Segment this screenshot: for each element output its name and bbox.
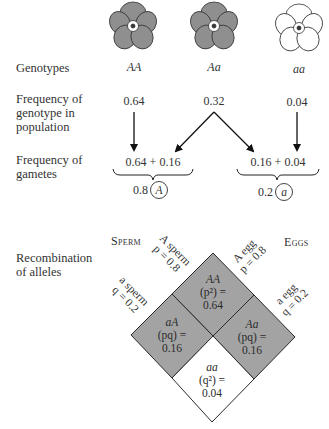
cell-genotype: aa — [182, 361, 242, 374]
gamete-a-total: 0.2a — [258, 183, 308, 201]
label-line: Recombination — [16, 251, 92, 265]
cell-genotype: AA — [183, 273, 243, 286]
freq-Aa: 0.32 — [194, 94, 234, 109]
arrow-Aa-to-a — [214, 112, 253, 151]
allele-A-circle: A — [150, 181, 168, 199]
arrow-Aa-to-A — [176, 112, 214, 151]
flower-white-icon — [271, 4, 326, 54]
cell-value: 0.64 — [183, 299, 243, 312]
freq-aa: 0.04 — [277, 95, 317, 110]
cell-value: 0.16 — [142, 342, 202, 355]
cell-formula: (pq) = — [222, 331, 282, 344]
cell-Aa-text: Aa (pq) = 0.16 — [222, 318, 282, 357]
genotype-aa: aa — [279, 62, 319, 77]
label-line: Frequency of — [16, 92, 82, 106]
allele-a-circle: a — [275, 183, 293, 201]
cell-aA-text: aA (pq) = 0.16 — [142, 316, 202, 355]
cell-aa-text: aa (q²) = 0.04 — [182, 361, 242, 400]
label-line: Frequency of — [16, 153, 82, 167]
row-label-genotypes: Genotypes — [16, 61, 69, 75]
cell-genotype: aA — [142, 316, 202, 329]
genotype-Aa: Aa — [194, 60, 234, 75]
cell-value: 0.16 — [222, 344, 282, 357]
gamete-A-value: 0.8 — [133, 183, 148, 197]
brace-a — [237, 169, 319, 180]
cell-formula: (p²) = — [183, 286, 243, 299]
eggs-heading: Eggs — [284, 235, 309, 250]
row-label-recombination: Recombination of alleles — [16, 251, 92, 279]
cell-AA-text: AA (p²) = 0.64 — [183, 273, 243, 312]
label-line: of alleles — [16, 265, 92, 279]
brace-A — [113, 169, 193, 180]
label-line: population — [16, 120, 82, 134]
label-line: genotype in — [16, 106, 82, 120]
genotype-AA: AA — [114, 60, 154, 75]
cell-formula: (q²) = — [182, 374, 242, 387]
cell-genotype: Aa — [222, 318, 282, 331]
cell-formula: (pq) = — [142, 329, 202, 342]
flower-dark-icon — [186, 2, 241, 52]
flower-dark-icon — [105, 2, 160, 52]
gamete-a-sum: 0.16 + 0.04 — [237, 155, 319, 170]
freq-AA: 0.64 — [114, 94, 154, 109]
row-label-frequency-gametes: Frequency of gametes — [16, 153, 82, 181]
gamete-A-sum: 0.64 + 0.16 — [113, 155, 193, 170]
row-label-frequency-genotype: Frequency of genotype in population — [16, 92, 82, 134]
label-line: gametes — [16, 167, 82, 181]
gamete-A-total: 0.8A — [133, 181, 183, 199]
sperm-heading: Sperm — [111, 234, 141, 249]
cell-value: 0.04 — [182, 387, 242, 400]
gamete-a-value: 0.2 — [258, 185, 273, 199]
